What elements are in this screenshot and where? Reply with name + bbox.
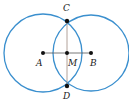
point-d: [65, 84, 69, 88]
point-b: [89, 51, 93, 55]
label-c: C: [63, 3, 70, 13]
bisector-diagram: A M B C D: [0, 0, 129, 100]
label-b: B: [89, 58, 97, 68]
point-c: [65, 19, 69, 23]
label-m: M: [67, 58, 78, 68]
point-a: [41, 51, 45, 55]
diagram-canvas: A M B C D: [0, 0, 129, 100]
label-a: A: [35, 58, 43, 68]
point-m: [65, 51, 69, 55]
label-d: D: [62, 91, 70, 100]
